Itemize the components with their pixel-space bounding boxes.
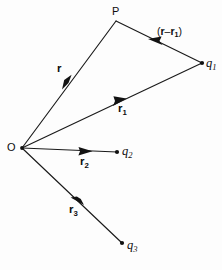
- point-dot-q3: [120, 241, 124, 245]
- label-separation-vector: (r–r1): [157, 26, 182, 37]
- label-vector-r3: r3: [69, 204, 78, 216]
- vector-line-r1: [22, 63, 202, 148]
- label-charge-q3-subscript: 3: [133, 244, 137, 254]
- label-charge-q3: q3: [127, 239, 138, 252]
- vector-diagram-canvas: [0, 0, 222, 270]
- label-charge-q2: q2: [122, 145, 133, 158]
- separation-close-paren: ): [179, 25, 183, 37]
- vector-line-r3: [22, 148, 122, 243]
- vector-diagram: O P r r1 r2 r3 (r–r1) q1 q2 q3: [0, 0, 222, 270]
- label-origin: O: [7, 142, 16, 153]
- point-dot-origin: [20, 146, 24, 150]
- label-charge-q1: q1: [206, 57, 217, 70]
- label-vector-r2-subscript: 2: [84, 161, 88, 170]
- vector-line-r2: [22, 148, 117, 152]
- point-dot-q2: [115, 150, 119, 154]
- label-charge-q2-subscript: 2: [128, 150, 132, 160]
- point-dot-q1: [200, 61, 204, 65]
- label-vector-r: r: [57, 63, 61, 75]
- label-field-point-P: P: [112, 6, 119, 17]
- separation-r1-subscript: 1: [175, 31, 179, 39]
- separation-r1: r: [170, 25, 174, 37]
- label-vector-r1: r1: [118, 103, 127, 115]
- label-vector-r3-subscript: 3: [73, 209, 77, 218]
- label-charge-q1-subscript: 1: [212, 62, 216, 72]
- label-vector-r1-subscript: 1: [122, 108, 126, 117]
- label-vector-r2: r2: [80, 156, 89, 168]
- vector-line-r: [22, 21, 116, 148]
